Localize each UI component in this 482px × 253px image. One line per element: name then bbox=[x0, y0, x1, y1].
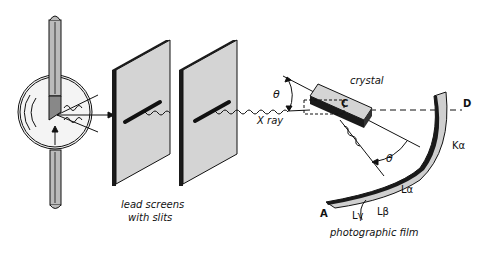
photographic-film-label: photographic film bbox=[330, 227, 419, 238]
xray-tube bbox=[18, 16, 114, 209]
lead-screen-1 bbox=[112, 40, 170, 186]
l-alpha-label: Lα bbox=[401, 184, 413, 195]
k-alpha-label: Kα bbox=[452, 140, 465, 151]
lead-screens-label-line2: with slits bbox=[128, 212, 172, 223]
l-gamma-label: Lγ bbox=[352, 210, 364, 221]
lead-screens-label-line1: lead screens bbox=[121, 199, 184, 210]
crystal-point-c-label: C bbox=[341, 98, 348, 109]
l-beta-label: Lβ bbox=[377, 206, 389, 217]
xray-spectrometer-diagram bbox=[0, 0, 482, 253]
point-a-label: A bbox=[320, 208, 328, 219]
xray-label: X ray bbox=[257, 115, 283, 126]
theta-incident-label: θ bbox=[273, 88, 280, 101]
crystal bbox=[304, 84, 372, 128]
crystal-label: crystal bbox=[350, 75, 384, 86]
point-d-label: D bbox=[463, 98, 471, 109]
theta-reflected-label: θ bbox=[386, 152, 393, 165]
